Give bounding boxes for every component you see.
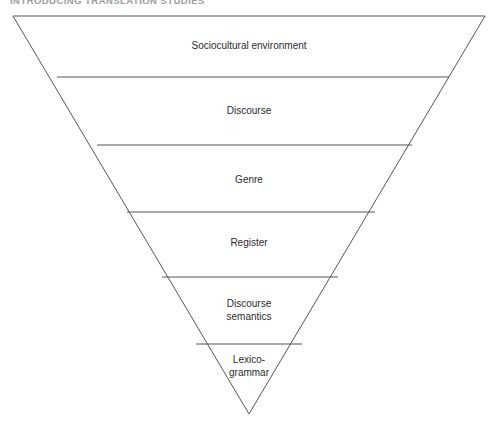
- tier-label-lexico-grammar: Lexico- grammar: [229, 354, 269, 379]
- inverted-pyramid-diagram: Sociocultural environment Discourse Genr…: [0, 0, 496, 431]
- tier-label-register: Register: [230, 237, 267, 250]
- tier-label-genre: Genre: [235, 174, 263, 187]
- tier-label-discourse: Discourse: [227, 105, 271, 118]
- tier-label-discourse-semantics: Discourse semantics: [226, 298, 271, 323]
- tier-label-sociocultural-environment: Sociocultural environment: [191, 40, 306, 53]
